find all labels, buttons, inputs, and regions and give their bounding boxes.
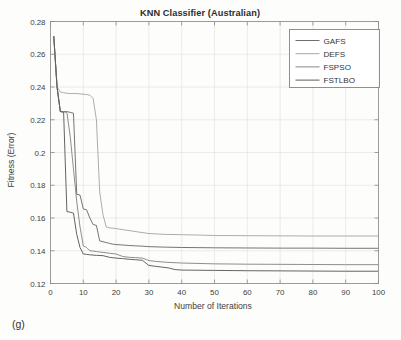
y-tick-label: 0.22	[30, 116, 45, 125]
x-tick-label: 0	[48, 288, 53, 297]
legend-label-gafs[interactable]: GAFS	[324, 37, 347, 46]
y-tick-label: 0.26	[30, 50, 46, 59]
legend-label-fspso[interactable]: FSPSO	[324, 63, 351, 72]
x-tick-label: 100	[372, 288, 386, 297]
figure-container: 01020304050607080901000.120.140.160.180.…	[0, 0, 401, 340]
legend-label-defs[interactable]: DEFS	[324, 50, 346, 59]
y-tick-label: 0.16	[30, 214, 46, 223]
y-tick-label: 0.12	[30, 280, 45, 289]
x-tick-label: 30	[145, 288, 154, 297]
y-tick-label: 0.24	[30, 83, 46, 92]
y-axis-label: Fitness (Error)	[6, 132, 16, 187]
panel-caption: (g)	[12, 318, 25, 330]
y-tick-label: 0.28	[30, 18, 46, 27]
x-tick-label: 80	[309, 288, 318, 297]
y-tick-label: 0.18	[30, 181, 46, 190]
x-tick-label: 20	[112, 288, 121, 297]
chart-legend[interactable]: GAFSDEFSFSPSOFSTLBO	[290, 30, 380, 88]
y-tick-label: 0.2	[35, 149, 46, 158]
x-axis-label: Number of Iterations	[174, 301, 252, 311]
x-tick-label: 70	[276, 288, 285, 297]
y-tick-label: 0.14	[30, 247, 46, 256]
x-tick-label: 50	[210, 288, 219, 297]
x-tick-label: 40	[177, 288, 186, 297]
x-tick-label: 60	[243, 288, 252, 297]
x-tick-label: 90	[341, 288, 350, 297]
chart-canvas: 01020304050607080901000.120.140.160.180.…	[0, 0, 401, 340]
x-tick-label: 10	[79, 288, 88, 297]
chart-title: KNN Classifier (Australian)	[140, 8, 260, 18]
legend-label-fstlbo[interactable]: FSTLBO	[324, 76, 355, 85]
